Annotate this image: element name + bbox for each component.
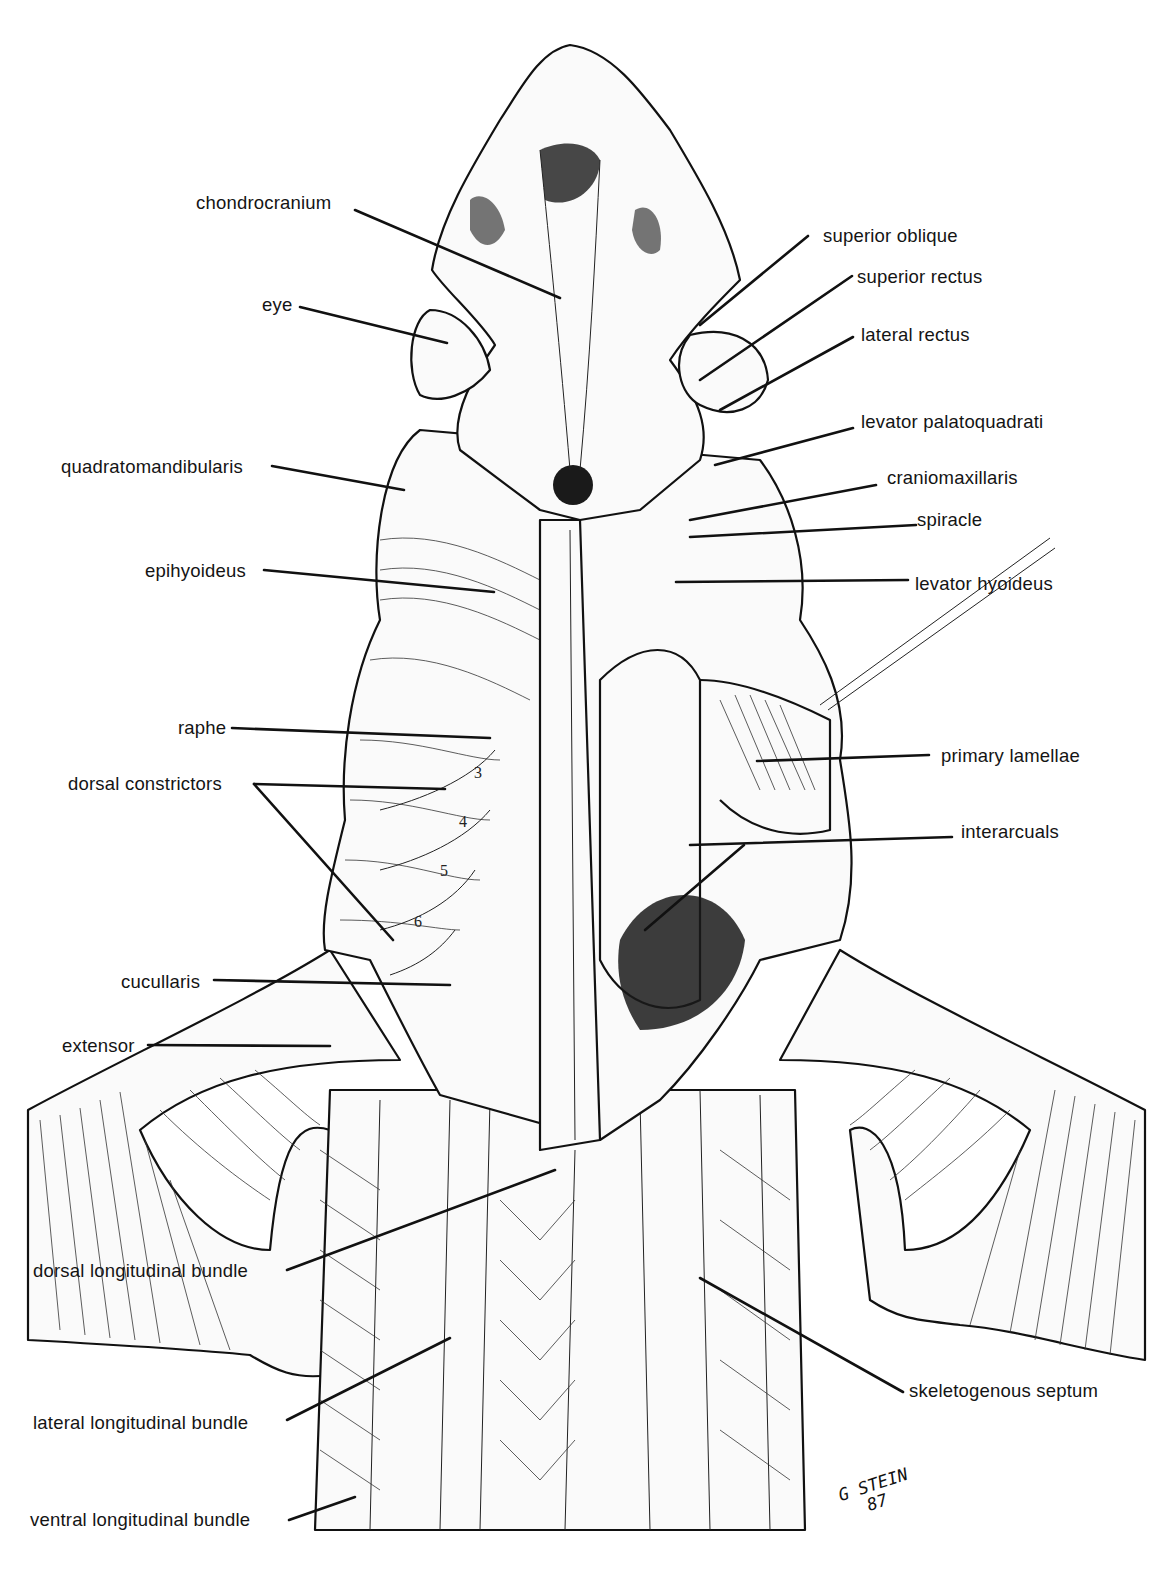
label-ventral-longitudinal-bundle: ventral longitudinal bundle [30,1509,250,1531]
label-quadratomandibularis: quadratomandibularis [61,456,243,478]
constrictor-number-6: 6 [414,913,422,931]
shark-dissection-illustration [0,0,1173,1594]
label-chondrocranium: chondrocranium [196,192,331,214]
label-lateral-rectus: lateral rectus [861,324,970,346]
label-dorsal-longitudinal-bundle: dorsal longitudinal bundle [33,1260,248,1282]
label-spiracle: spiracle [917,509,982,531]
probe [820,538,1055,710]
right-pectoral-fin [780,950,1145,1360]
label-superior-rectus: superior rectus [857,266,982,288]
label-levator-hyoideus: levator hyoideus [915,573,1053,595]
label-raphe: raphe [178,717,226,739]
label-dorsal-constrictors: dorsal constrictors [68,773,222,795]
label-primary-lamellae: primary lamellae [941,745,1080,767]
label-lateral-longitudinal-bundle: lateral longitudinal bundle [33,1412,248,1434]
label-cucullaris: cucullaris [121,971,200,993]
label-skeletogenous-septum: skeletogenous septum [909,1380,1098,1402]
label-eye: eye [262,294,292,316]
constrictor-number-4: 4 [459,813,467,831]
label-interarcuals: interarcuals [961,821,1059,843]
label-levator-palatoquadrati: levator palatoquadrati [861,411,1043,433]
head-chondrocranium [432,45,740,520]
label-craniomaxillaris: craniomaxillaris [887,467,1018,489]
branchial-region [324,430,852,1150]
constrictor-number-3: 3 [474,764,482,782]
label-superior-oblique: superior oblique [823,225,958,247]
label-extensor: extensor [62,1035,135,1057]
label-epihyoideus: epihyoideus [145,560,246,582]
trunk-musculature [315,1090,805,1530]
constrictor-number-5: 5 [440,862,448,880]
